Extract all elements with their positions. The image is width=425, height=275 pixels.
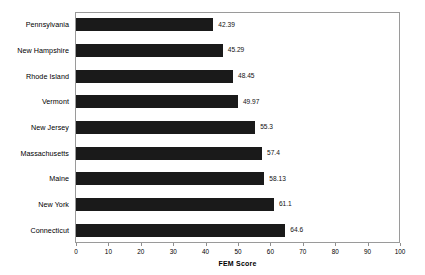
bar (76, 44, 223, 57)
bar-row: Vermont49.97 (0, 89, 425, 115)
bar-value-label: 58.13 (269, 175, 286, 183)
bar-value-label: 61.1 (279, 200, 292, 208)
bar-value-label: 57.4 (267, 149, 280, 157)
bar (76, 18, 213, 31)
bar-value-label: 45.29 (228, 46, 245, 54)
bar-rows-container: Pennsylvania42.39New Hampshire45.29Rhode… (0, 12, 425, 243)
x-axis-tick (108, 243, 109, 246)
x-axis-tick-label: 90 (364, 248, 371, 256)
bar-value-label: 42.39 (218, 21, 235, 29)
bar-row: Pennsylvania42.39 (0, 12, 425, 38)
bar (76, 224, 285, 237)
bar-row: New Hampshire45.29 (0, 38, 425, 64)
x-axis-tick (368, 243, 369, 246)
category-label: New Jersey (0, 123, 69, 132)
x-axis-tick (76, 243, 77, 246)
bar-value-label: 55.3 (260, 123, 273, 131)
category-label: Maine (0, 174, 69, 183)
category-label: New Hampshire (0, 46, 69, 55)
bar-track: 48.45 (76, 63, 400, 89)
bar (76, 121, 255, 134)
x-axis-tick (173, 243, 174, 246)
bar-track: 55.3 (76, 115, 400, 141)
x-axis-tick (400, 243, 401, 246)
x-axis-tick-label: 100 (395, 248, 406, 256)
bar-track: 49.97 (76, 89, 400, 115)
x-axis-tick-label: 60 (267, 248, 274, 256)
bar-track: 58.13 (76, 166, 400, 192)
bar (76, 198, 274, 211)
bar-value-label: 48.45 (238, 72, 255, 80)
category-label: Connecticut (0, 226, 69, 235)
bar-track: 61.1 (76, 192, 400, 218)
x-axis-tick-label: 70 (299, 248, 306, 256)
bar-row: Maine58.13 (0, 166, 425, 192)
x-axis-tick (335, 243, 336, 246)
bar-track: 57.4 (76, 140, 400, 166)
x-axis-tick-label: 20 (137, 248, 144, 256)
bar (76, 147, 262, 160)
bar-row: New Jersey55.3 (0, 115, 425, 141)
x-axis-tick-label: 80 (332, 248, 339, 256)
category-label: Massachusetts (0, 149, 69, 158)
bar (76, 70, 233, 83)
x-axis-tick (303, 243, 304, 246)
x-axis-tick (206, 243, 207, 246)
category-label: Vermont (0, 97, 69, 106)
x-axis-tick (238, 243, 239, 246)
bar-value-label: 49.97 (243, 98, 260, 106)
category-label: New York (0, 200, 69, 209)
x-axis-tick-label: 40 (202, 248, 209, 256)
x-axis-tick-label: 30 (170, 248, 177, 256)
bar-track: 45.29 (76, 38, 400, 64)
bar (76, 95, 238, 108)
x-axis-title: FEM Score (75, 260, 400, 267)
x-axis-tick-label: 50 (234, 248, 241, 256)
bar-row: Massachusetts57.4 (0, 140, 425, 166)
category-label: Pennsylvania (0, 20, 69, 29)
bar-row: New York61.1 (0, 192, 425, 218)
bar-row: Connecticut64.6 (0, 217, 425, 243)
bar (76, 172, 264, 185)
x-axis-tick (270, 243, 271, 246)
bar-row: Rhode Island48.45 (0, 63, 425, 89)
bar-chart-figure: Pennsylvania42.39New Hampshire45.29Rhode… (0, 0, 425, 275)
x-axis: FEM Score 0102030405060708090100 (75, 243, 400, 275)
x-axis-tick-label: 0 (74, 248, 78, 256)
bar-track: 64.6 (76, 217, 400, 243)
bar-track: 42.39 (76, 12, 400, 38)
category-label: Rhode Island (0, 72, 69, 81)
bar-value-label: 64.6 (290, 226, 303, 234)
x-axis-tick (141, 243, 142, 246)
x-axis-tick-label: 10 (105, 248, 112, 256)
